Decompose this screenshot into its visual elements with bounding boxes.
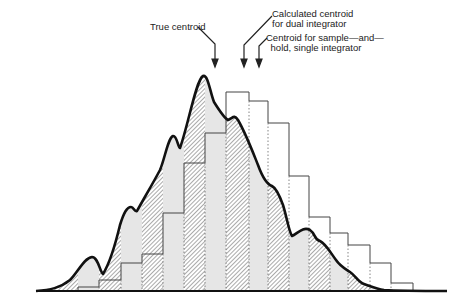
bar-fill bbox=[226, 60, 249, 291]
centroid-histogram-diagram bbox=[0, 0, 459, 304]
true-centroid-label: True centroid bbox=[150, 22, 206, 32]
area-under-curve bbox=[36, 60, 447, 291]
bar-fill bbox=[348, 60, 370, 291]
bar-fill bbox=[163, 60, 184, 291]
bar-fill bbox=[370, 60, 391, 291]
bar-fill bbox=[205, 60, 226, 291]
sample-hold-label-line2: hold, single integrator bbox=[266, 43, 366, 53]
bar-fill bbox=[391, 60, 413, 291]
bar-fill bbox=[309, 60, 330, 291]
bar-fill bbox=[268, 60, 289, 291]
bar-fill bbox=[121, 60, 142, 291]
dual-integrator-label: Calculated centroid for dual integrator bbox=[272, 9, 344, 29]
sample-hold-label: Centroid for sample—and— hold, single in… bbox=[266, 33, 366, 53]
true-centroid-arrow bbox=[198, 27, 218, 67]
bar-fill bbox=[78, 60, 99, 291]
bar-fill bbox=[142, 60, 163, 291]
dual-integrator-label-line2: for dual integrator bbox=[272, 19, 344, 29]
bar-fill bbox=[249, 60, 268, 291]
